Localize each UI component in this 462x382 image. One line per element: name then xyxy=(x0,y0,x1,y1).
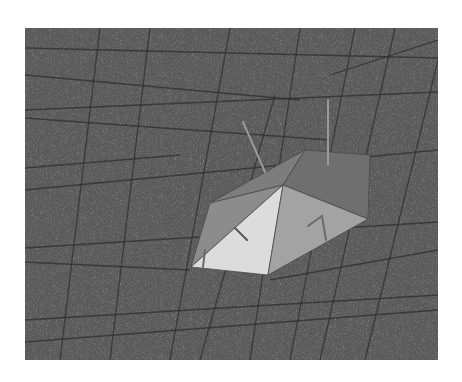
rendered-3d-scene xyxy=(0,0,462,382)
